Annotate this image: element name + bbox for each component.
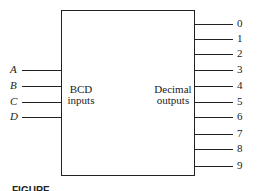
output-line-6	[195, 117, 233, 118]
output-label-7: 7	[237, 128, 243, 139]
output-label-5: 5	[237, 96, 243, 107]
bcd-inputs-label: BCD inputs	[64, 84, 98, 106]
output-label-1: 1	[237, 33, 243, 44]
decimal-outputs-label: Decimal outputs	[152, 84, 194, 106]
input-label-d: D	[10, 111, 18, 122]
bcd-label-line2: inputs	[64, 95, 98, 106]
input-label-c: C	[10, 96, 17, 107]
output-line-7	[195, 134, 233, 135]
output-label-0: 0	[237, 18, 243, 29]
output-line-2	[195, 54, 233, 55]
output-line-0	[195, 24, 233, 25]
input-line-d	[22, 117, 61, 118]
figure-caption: FIGURE	[12, 186, 50, 191]
output-line-4	[195, 86, 233, 87]
output-line-5	[195, 102, 233, 103]
input-line-b	[22, 86, 61, 87]
output-label-6: 6	[237, 111, 243, 122]
input-label-a: A	[10, 64, 17, 75]
output-label-9: 9	[237, 160, 243, 171]
output-label-8: 8	[237, 143, 243, 154]
input-line-a	[22, 70, 61, 71]
output-line-8	[195, 149, 233, 150]
decimal-label-line2: outputs	[152, 95, 194, 106]
input-label-b: B	[10, 80, 17, 91]
input-line-c	[22, 102, 61, 103]
output-line-1	[195, 39, 233, 40]
output-line-3	[195, 70, 233, 71]
output-label-2: 2	[237, 48, 243, 59]
output-label-3: 3	[237, 64, 243, 75]
output-label-4: 4	[237, 80, 243, 91]
output-line-9	[195, 166, 233, 167]
